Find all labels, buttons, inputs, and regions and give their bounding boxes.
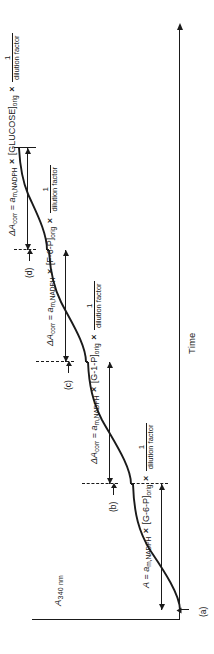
eq-b-quantity: ΔA [89, 452, 99, 464]
marker-a-text: (a) [198, 607, 208, 617]
dim-a-head-left [159, 604, 165, 610]
dim-a-line [161, 484, 162, 610]
eq-a-quantity: A [141, 582, 151, 588]
eq-c-analyte: [F-6-P] [45, 238, 55, 266]
progress-curve [0, 0, 214, 654]
absorbance-vs-time-plot: Time A340 nm (a) (b) (c) (d) [0, 0, 214, 654]
eq-d-quantity: ΔA [7, 224, 17, 236]
eq-d-analyte: [GLUCOSE] [7, 106, 17, 155]
equation-step-a: A = am,NADPH × [G-6-P]orig × 1 dilution … [138, 422, 155, 588]
dim-d-head-left [25, 244, 31, 250]
dim-c-head-left [63, 356, 69, 362]
eq-b-relation: = [89, 433, 99, 438]
eq-b-coefficient: a [89, 425, 99, 430]
eq-a-frac-num: 1 [138, 423, 146, 472]
dim-a-head-right [159, 484, 165, 490]
eq-d-analyte-sub: orig [10, 95, 17, 106]
dim-b-head-left [107, 478, 113, 484]
dim-d-head-right [25, 148, 31, 154]
marker-label-d: (d) [24, 268, 34, 278]
eq-c-quantity-sub: corr [48, 323, 55, 334]
eq-b-coefficient-sub: m,NADPH [92, 395, 99, 425]
dim-c-head-right [63, 250, 69, 256]
eq-c-quantity: ΔA [45, 334, 55, 346]
eq-d-relation: = [7, 205, 17, 210]
eq-a-analyte-sub: orig [144, 485, 151, 496]
eq-d-frac-den: dilution factor [12, 33, 21, 82]
eq-d-quantity-sub: corr [10, 213, 17, 224]
eq-b-frac-den: dilution factor [94, 281, 103, 330]
eq-d-fraction: 1 dilution factor [4, 33, 21, 82]
eq-c-coefficient: a [45, 307, 55, 312]
figure-canvas: Time A340 nm (a) (b) (c) (d) [0, 0, 214, 654]
eq-d-times-2: × [7, 86, 17, 93]
equation-step-c: ΔAcorr = am,NADPH × [F-6-P]orig × 1 dilu… [42, 164, 59, 346]
eq-d-frac-num: 1 [4, 33, 12, 82]
marker-c-text: (c) [63, 380, 73, 390]
marker-a-arrowhead [177, 608, 182, 614]
eq-b-times-2: × [89, 334, 99, 341]
eq-a-times-2: × [141, 475, 151, 482]
equation-step-d: ΔAcorr = am,NADPH × [GLUCOSE]orig × 1 di… [4, 32, 21, 236]
eq-b-analyte: [G-1-P] [89, 354, 99, 383]
marker-label-c: (c) [63, 380, 73, 390]
dim-c-line [65, 250, 66, 362]
eq-a-fraction: 1 dilution factor [138, 423, 155, 472]
equation-step-b: ΔAcorr = am,NADPH × [G-1-P]orig × 1 dilu… [86, 280, 103, 464]
eq-a-analyte: [G-6-P] [141, 495, 151, 524]
eq-c-fraction: 1 dilution factor [42, 165, 59, 214]
dim-b-line [109, 362, 110, 484]
eq-c-times-2: × [45, 217, 55, 224]
eq-a-relation: = [141, 574, 151, 579]
eq-d-times-1: × [7, 158, 17, 165]
dim-b-guide-left [82, 483, 118, 484]
eq-c-analyte-sub: orig [48, 227, 55, 238]
eq-a-coefficient: a [141, 567, 151, 572]
eq-c-relation: = [45, 315, 55, 320]
eq-d-coefficient: a [7, 197, 17, 202]
eq-a-coefficient-sub: m,NADPH [144, 537, 151, 567]
eq-c-coefficient-sub: m,NADPH [48, 277, 55, 307]
eq-c-frac-den: dilution factor [50, 165, 59, 214]
eq-b-times-1: × [89, 386, 99, 393]
eq-b-quantity-sub: corr [92, 441, 99, 452]
marker-label-a: (a) [198, 607, 208, 617]
eq-c-times-1: × [45, 268, 55, 275]
marker-d-text: (d) [24, 268, 34, 278]
eq-b-frac-num: 1 [86, 281, 94, 330]
eq-a-frac-den: dilution factor [146, 423, 155, 472]
eq-d-coefficient-sub: m,NADPH [10, 167, 17, 197]
dim-d-line [27, 148, 28, 250]
eq-c-frac-num: 1 [42, 165, 50, 214]
dim-b-head-right [107, 362, 113, 368]
eq-b-fraction: 1 dilution factor [86, 281, 103, 330]
marker-label-b: (b) [108, 502, 118, 512]
eq-a-times-1: × [141, 527, 151, 534]
eq-b-analyte-sub: orig [92, 343, 99, 354]
marker-b-text: (b) [108, 502, 118, 512]
